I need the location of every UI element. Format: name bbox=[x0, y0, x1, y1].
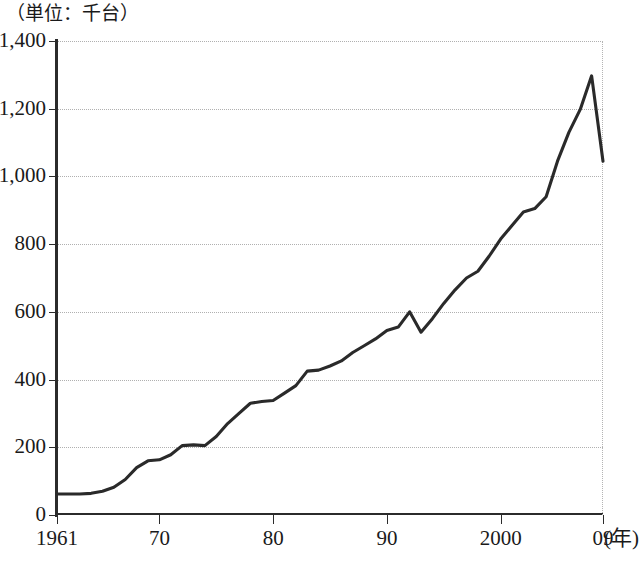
data-line bbox=[57, 76, 603, 494]
line-chart: （単位：千台） 02004006008001,0001,2001,400 196… bbox=[0, 0, 643, 562]
x-axis-unit-label: (年) bbox=[604, 527, 639, 549]
series-layer bbox=[0, 0, 643, 562]
